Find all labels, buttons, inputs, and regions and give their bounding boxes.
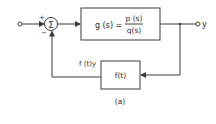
output-terminal (196, 22, 200, 26)
sigma-symbol: Σ (48, 20, 54, 30)
g-numerator: p (s) (126, 14, 143, 23)
g-lhs: g (s) = (95, 21, 122, 30)
figure-caption: (a) (115, 97, 126, 106)
g-denominator: q(s) (127, 26, 142, 35)
plus-sign: + (39, 14, 45, 22)
feedback-signal-label: f (t)y (79, 60, 96, 68)
minus-sign: − (41, 29, 47, 37)
input-terminal (18, 22, 22, 26)
block-diagram: Σ + − g (s) = p (s) q(s) y f(t) f (t)y (… (0, 0, 216, 124)
output-label: y (202, 20, 207, 29)
f-label: f(t) (115, 71, 127, 80)
